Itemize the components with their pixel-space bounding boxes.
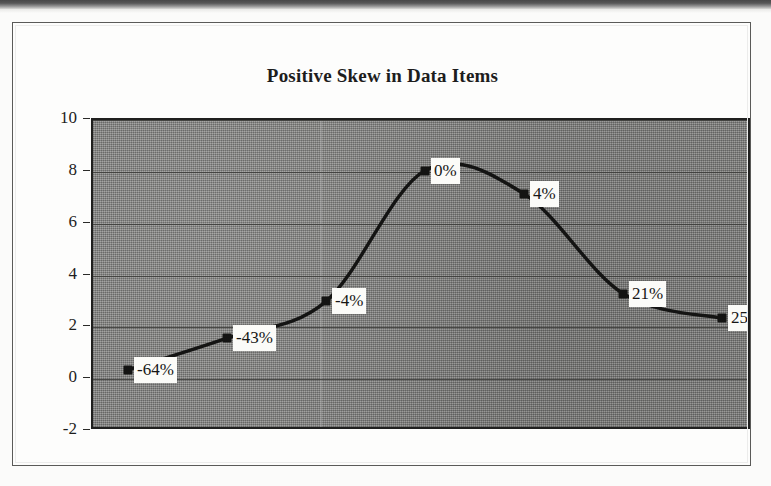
- y-axis-tick: [83, 170, 90, 171]
- y-axis-tick: [83, 429, 90, 430]
- scan-artifact-bar: [0, 0, 771, 9]
- y-axis-tick: [83, 118, 90, 119]
- chart-figure-frame: Positive Skew in Data Items 1086420-2 -6…: [12, 22, 751, 466]
- y-axis-tick: [83, 325, 90, 326]
- chart-title: Positive Skew in Data Items: [13, 65, 752, 87]
- y-axis-label: 10: [33, 109, 77, 126]
- data-point-label: 25%: [728, 305, 750, 331]
- y-axis-tick: [83, 222, 90, 223]
- data-marker[interactable]: [520, 189, 529, 198]
- data-point-label: 4%: [530, 181, 559, 207]
- data-marker[interactable]: [124, 365, 133, 374]
- y-axis-label: 6: [33, 213, 77, 230]
- y-axis-label: -2: [33, 420, 77, 437]
- data-marker[interactable]: [718, 314, 727, 323]
- data-point-label: 0%: [431, 158, 460, 184]
- data-point-label: 21%: [629, 281, 666, 307]
- y-axis-tick: [83, 377, 90, 378]
- series-path: [128, 164, 722, 370]
- data-marker[interactable]: [223, 334, 232, 343]
- data-marker[interactable]: [322, 297, 331, 306]
- plot-area: -64%-43%-4%0%4%21%25%: [91, 118, 750, 429]
- data-point-label: -64%: [134, 357, 177, 383]
- y-axis-label: 8: [33, 161, 77, 178]
- data-point-label: -43%: [233, 325, 276, 351]
- y-axis-tick: [83, 274, 90, 275]
- y-axis-label: 0: [33, 368, 77, 385]
- y-axis-label: 4: [33, 265, 77, 282]
- data-point-label: -4%: [332, 288, 366, 314]
- data-marker[interactable]: [421, 166, 430, 175]
- y-axis-label: 2: [33, 316, 77, 333]
- data-marker[interactable]: [619, 289, 628, 298]
